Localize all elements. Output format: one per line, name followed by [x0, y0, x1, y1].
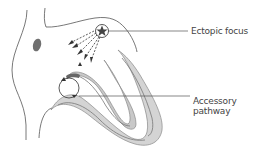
- accessory-pathway-label-line2: pathway: [193, 106, 253, 116]
- sinoatrial-node: [31, 38, 42, 53]
- heart-diagram: [0, 0, 253, 159]
- accessory-pathway-label: Accessory pathway: [193, 96, 253, 116]
- ventricle-inner-outline: [39, 108, 52, 138]
- reentry-arrow-small-icon: [78, 62, 82, 66]
- heart-outer-outline: [12, 10, 27, 140]
- ectopic-focus-label: Ectopic focus: [191, 26, 248, 36]
- accessory-pathway-label-line1: Accessory: [193, 96, 253, 106]
- atrium-top-outline: [44, 8, 137, 52]
